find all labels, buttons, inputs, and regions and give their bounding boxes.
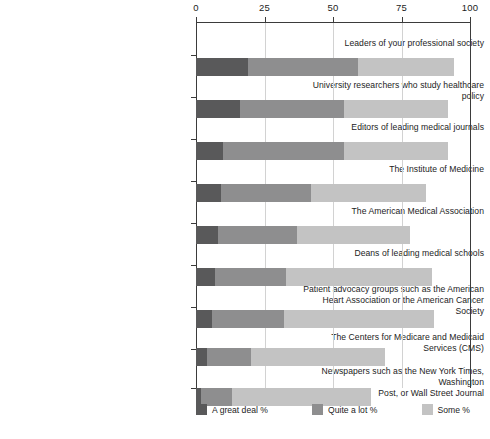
y-tick xyxy=(191,223,196,224)
bar-segment xyxy=(196,348,207,366)
gridline-75 xyxy=(402,22,403,388)
x-tick-75 xyxy=(402,17,403,22)
legend-item-quite-a-lot: Quite a lot % xyxy=(312,404,377,415)
bar-segment xyxy=(297,226,409,244)
y-tick xyxy=(191,265,196,266)
bar-segment xyxy=(284,310,435,328)
bar-segment xyxy=(344,100,448,118)
bar-segment xyxy=(240,100,344,118)
x-tick-label-100: 100 xyxy=(462,2,478,13)
gridline-100 xyxy=(470,22,471,388)
x-tick-label-75: 75 xyxy=(396,2,407,13)
bar-segment xyxy=(196,310,212,328)
bar-segment xyxy=(221,184,311,202)
bar-segment xyxy=(196,184,221,202)
x-tick-0 xyxy=(196,17,197,22)
bar-segment xyxy=(196,142,223,160)
bar-segment xyxy=(344,142,448,160)
bar-segment xyxy=(196,58,248,76)
bar-segment xyxy=(286,268,431,286)
bar-segment xyxy=(251,348,385,366)
gridline-25 xyxy=(265,22,266,388)
legend-label: A great deal % xyxy=(212,405,268,415)
x-tick-25 xyxy=(265,17,266,22)
bar-segment xyxy=(207,348,251,366)
legend-swatch-icon xyxy=(422,404,433,415)
bar-segment xyxy=(196,226,218,244)
bar-segment xyxy=(358,58,454,76)
stacked-bar-chart: Leaders of your professional society Uni… xyxy=(0,0,490,439)
bar-segment xyxy=(196,268,215,286)
legend-item-some: Some % xyxy=(422,404,470,415)
y-tick xyxy=(191,97,196,98)
bar-segment xyxy=(248,58,358,76)
plot-area: 0 25 50 75 100 xyxy=(196,22,470,388)
gridline-50 xyxy=(333,22,334,388)
y-axis-line xyxy=(196,22,197,388)
x-tick-50 xyxy=(333,17,334,22)
y-tick xyxy=(191,307,196,308)
x-tick-label-25: 25 xyxy=(259,2,270,13)
chart-legend: A great deal % Quite a lot % Some % xyxy=(196,404,470,415)
x-tick-label-0: 0 xyxy=(193,2,198,13)
legend-swatch-icon xyxy=(312,404,323,415)
bar-segment xyxy=(311,184,426,202)
x-tick-100 xyxy=(470,17,471,22)
x-axis-line xyxy=(196,22,470,23)
bar-segment xyxy=(196,100,240,118)
bar-segment xyxy=(218,226,297,244)
bar-segment xyxy=(212,310,283,328)
legend-item-great-deal: A great deal % xyxy=(196,404,268,415)
legend-swatch-icon xyxy=(196,404,207,415)
legend-label: Some % xyxy=(438,405,470,415)
y-tick xyxy=(191,55,196,56)
y-tick xyxy=(191,181,196,182)
legend-label: Quite a lot % xyxy=(328,405,377,415)
y-tick xyxy=(191,139,196,140)
bar-segment xyxy=(223,142,344,160)
x-tick-label-50: 50 xyxy=(328,2,339,13)
bar-segment xyxy=(215,268,286,286)
